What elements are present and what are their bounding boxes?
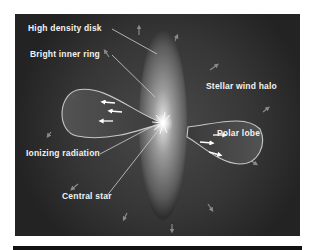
label-central-star: Central star xyxy=(62,191,112,201)
label-ionizing-radiation: Ionizing radiation xyxy=(26,148,100,158)
label-polar-lobe: Polar lobe xyxy=(217,128,260,138)
label-high-density-disk: High density disk xyxy=(28,23,102,33)
nebula-illustration xyxy=(15,14,300,236)
central-star xyxy=(161,121,165,125)
diagram-panel: High density disk Bright inner ring Stel… xyxy=(15,14,300,236)
bottom-divider xyxy=(13,246,302,250)
label-bright-inner-ring: Bright inner ring xyxy=(30,49,100,59)
label-stellar-wind-halo: Stellar wind halo xyxy=(206,81,277,91)
